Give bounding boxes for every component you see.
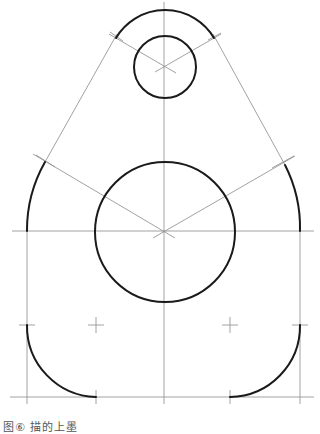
small-radial-left — [109, 34, 176, 73]
tick-mark — [36, 155, 55, 167]
left-side-arc — [27, 162, 45, 231]
outer-top-arc — [116, 10, 214, 38]
left-bottom-fillet — [27, 325, 96, 397]
big-radial-right — [153, 156, 295, 238]
outline — [27, 10, 300, 397]
left-tangent-line — [45, 34, 117, 162]
construction-lines — [10, 2, 314, 404]
small-radial-right — [155, 34, 221, 72]
right-bottom-fillet — [230, 325, 300, 397]
figure-caption: 图⑥ 描的上墨 — [3, 422, 78, 434]
right-tangent-line — [213, 34, 285, 165]
tick-mark — [208, 33, 221, 40]
tick-mark — [272, 156, 294, 168]
right-side-arc — [285, 165, 300, 231]
